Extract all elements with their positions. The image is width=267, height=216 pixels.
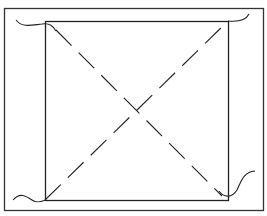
squiggle-bottom-right — [219, 171, 255, 196]
outer-frame — [5, 9, 264, 211]
squiggle-bottom-left — [13, 195, 46, 202]
squiggle-top-right — [228, 14, 249, 21]
diagonal-dashed-descending — [56, 30, 222, 196]
diagram-canvas — [0, 0, 267, 216]
